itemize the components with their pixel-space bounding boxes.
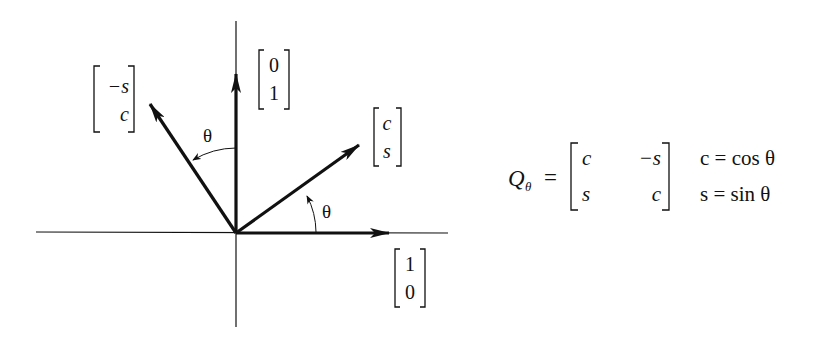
theta-label-lower: θ [322,201,331,222]
label-q1: c s [374,108,401,166]
svg-text:=: = [544,165,557,190]
svg-text:−s: −s [108,75,129,97]
svg-text:Q: Q [508,166,525,191]
svg-text:−s: −s [639,146,661,170]
sin-definition: s = sin θ [700,182,770,206]
svg-text:c: c [383,112,392,134]
label-q2: −s c [94,66,134,132]
svg-text:s: s [582,182,590,206]
svg-text:c: c [652,182,662,206]
vector-q2-arrow [150,104,236,233]
cos-definition: c = cos θ [700,146,775,170]
svg-text:0: 0 [269,54,279,76]
label-e2: 0 1 [259,50,289,109]
vector-q1-arrow [236,145,359,233]
svg-text:0: 0 [405,281,415,303]
angle-arc-lower [307,196,316,232]
svg-text:c: c [582,146,592,170]
svg-text:1: 1 [405,253,415,275]
svg-text:θ: θ [525,179,532,194]
svg-text:1: 1 [269,82,279,104]
label-e1: 1 0 [395,249,425,307]
svg-text:s: s [383,140,391,162]
rotation-matrix-formula: Q θ = c −s s c c = cos θ s = sin θ [508,143,775,210]
svg-text:c: c [120,103,129,125]
rotation-diagram: θ θ −s c 0 1 c s 1 0 Q θ = c −s s c c [0,0,823,343]
angle-arc-upper [193,148,236,160]
theta-label-upper: θ [203,125,212,146]
